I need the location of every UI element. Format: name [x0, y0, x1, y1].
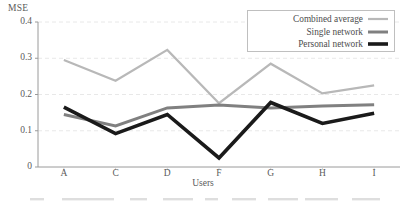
- legend-item-label: Combined average: [293, 14, 363, 24]
- y-tick-label: 0.1: [2, 125, 32, 135]
- mse-line-chart: MSE 00.10.20.30.4 ACDFGHI Users Combined…: [0, 0, 406, 204]
- series-lines: [64, 50, 374, 158]
- x-tick-label: I: [359, 168, 389, 178]
- legend-item-label: Personal network: [298, 39, 363, 49]
- caption-fragment: [0, 194, 406, 204]
- x-tick-label: D: [152, 168, 182, 178]
- legend-item: Single network: [252, 26, 388, 39]
- x-tick-label: F: [204, 168, 234, 178]
- y-tick-label: 0: [2, 161, 32, 171]
- y-tick-label: 0.3: [2, 52, 32, 62]
- x-axis-title: Users: [0, 178, 406, 188]
- y-tick-label: 0.2: [2, 89, 32, 99]
- legend-color-swatch: [368, 15, 388, 23]
- x-tick-label: H: [307, 168, 337, 178]
- x-tick-label: G: [256, 168, 286, 178]
- legend-color-swatch: [368, 28, 388, 36]
- legend-item-label: Single network: [306, 27, 363, 37]
- x-tick-label: C: [101, 168, 131, 178]
- series-line: [64, 102, 374, 157]
- legend-item: Combined average: [252, 13, 388, 26]
- legend-color-swatch: [368, 40, 388, 48]
- x-tick-label: A: [49, 168, 79, 178]
- chart-legend: Combined averageSingle networkPersonal n…: [247, 10, 395, 52]
- legend-item: Personal network: [252, 38, 388, 51]
- y-tick-label: 0.4: [2, 16, 32, 26]
